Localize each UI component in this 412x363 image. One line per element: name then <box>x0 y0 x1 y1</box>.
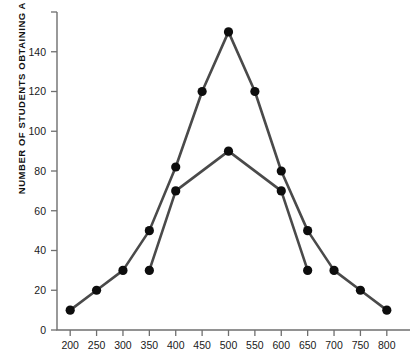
data-point <box>250 87 259 96</box>
data-point <box>66 306 75 315</box>
line-chart: NUMBER OF STUDENTS OBTAINING A SCORE 020… <box>0 0 412 363</box>
data-point <box>171 162 180 171</box>
data-point <box>303 266 312 275</box>
x-tick-label: 500 <box>220 339 238 351</box>
data-point <box>224 27 233 36</box>
y-axis-ticks: 020406080100120140 <box>28 12 57 336</box>
data-point <box>356 286 365 295</box>
x-tick-label: 300 <box>114 339 132 351</box>
axis-lines <box>57 12 410 330</box>
y-tick-label: 40 <box>34 244 46 256</box>
x-tick-label: 800 <box>378 339 396 351</box>
x-tick-label: 250 <box>88 339 106 351</box>
x-tick-label: 200 <box>61 339 79 351</box>
x-tick-label: 650 <box>299 339 317 351</box>
y-tick-label: 60 <box>34 205 46 217</box>
data-point <box>92 286 101 295</box>
series-line <box>70 32 387 310</box>
data-point <box>303 226 312 235</box>
y-tick-label: 20 <box>34 284 46 296</box>
y-tick-label: 0 <box>40 324 46 336</box>
x-tick-label: 350 <box>141 339 159 351</box>
markers-broad-distribution <box>66 27 392 314</box>
x-tick-label: 750 <box>352 339 370 351</box>
y-tick-label: 140 <box>28 46 46 58</box>
x-tick-label: 600 <box>273 339 291 351</box>
x-tick-label: 700 <box>325 339 343 351</box>
data-point <box>145 226 154 235</box>
series-layer <box>66 27 392 314</box>
data-point <box>118 266 127 275</box>
data-point <box>277 186 286 195</box>
chart-canvas: 020406080100120140 200250300350400450500… <box>0 0 412 363</box>
data-point <box>277 166 286 175</box>
y-tick-label: 120 <box>28 85 46 97</box>
y-tick-label: 100 <box>28 125 46 137</box>
x-tick-label: 400 <box>167 339 185 351</box>
y-tick-label: 80 <box>34 165 46 177</box>
x-tick-label: 550 <box>246 339 264 351</box>
data-point <box>198 87 207 96</box>
data-point <box>171 186 180 195</box>
data-point <box>329 266 338 275</box>
x-axis-ticks: 200250300350400450500550600650700750800 <box>61 330 395 351</box>
x-tick-label: 450 <box>193 339 211 351</box>
data-point <box>224 147 233 156</box>
series-broad-distribution <box>70 32 387 310</box>
data-point <box>382 306 391 315</box>
data-point <box>145 266 154 275</box>
